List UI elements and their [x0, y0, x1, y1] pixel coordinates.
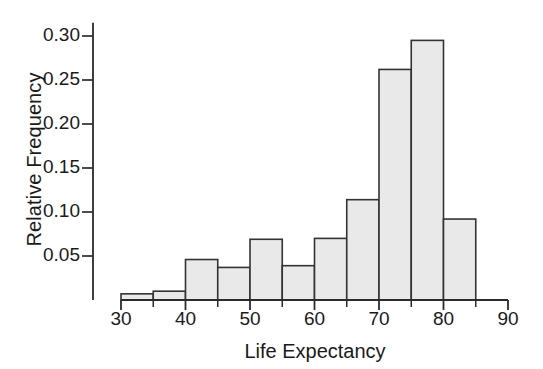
- histogram-bar: [379, 69, 411, 300]
- histogram-bar: [121, 294, 153, 300]
- histogram-bar: [315, 238, 347, 300]
- histogram-chart: Relative Frequency Life Expectancy 0.050…: [0, 0, 543, 369]
- histogram-bar: [282, 266, 314, 300]
- bars-group: [121, 40, 476, 300]
- histogram-bar: [218, 267, 250, 300]
- histogram-bar: [250, 239, 282, 300]
- histogram-bar: [444, 219, 476, 300]
- histogram-bar: [153, 291, 185, 300]
- histogram-bar: [411, 40, 443, 300]
- histogram-bar: [347, 200, 379, 300]
- plot-area: [0, 0, 543, 369]
- histogram-bar: [186, 260, 218, 300]
